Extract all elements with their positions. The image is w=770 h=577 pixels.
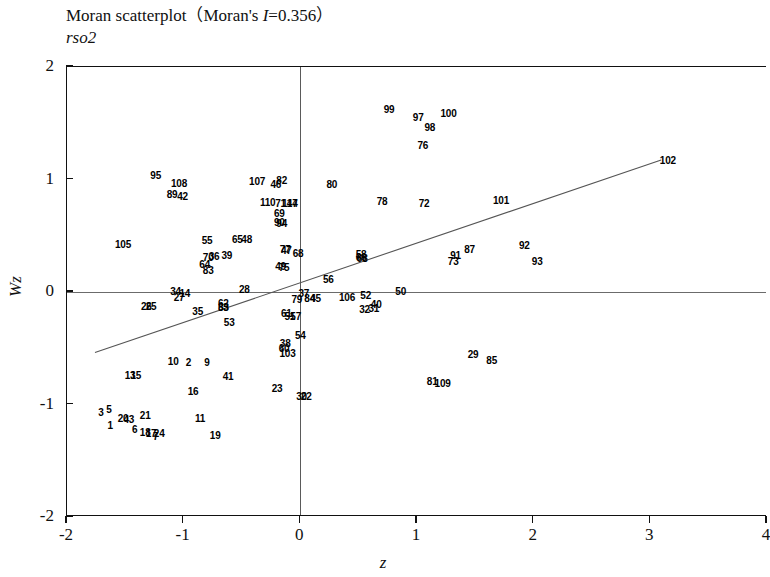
y-tick-label: -2	[40, 506, 54, 526]
data-point-label: 5	[106, 404, 111, 415]
chart-title-prefix: Moran scatterplot（Moran's	[66, 6, 263, 25]
data-point-label: 110	[260, 197, 276, 208]
data-point-label: 63	[218, 301, 229, 312]
chart-title: Moran scatterplot（Moran's I=0.356）	[66, 6, 333, 26]
data-point-label: 52	[360, 290, 371, 301]
data-point-label: 95	[150, 170, 161, 181]
data-point-label: 26	[141, 300, 152, 311]
data-point-label: 42	[177, 191, 188, 202]
data-point-label: 97	[413, 111, 424, 122]
data-point-label: 24	[154, 427, 165, 438]
data-point-label: 19	[210, 429, 221, 440]
x-tick-label: 1	[412, 525, 421, 545]
data-point-label: 99	[384, 103, 395, 114]
data-point-label: 23	[272, 382, 283, 393]
y-tick-label: 2	[46, 56, 55, 76]
x-tick-mark	[299, 516, 301, 523]
data-point-label: 108	[171, 177, 187, 188]
data-point-label: 21	[140, 409, 151, 420]
data-point-label: 47	[287, 198, 298, 209]
data-point-label: 80	[326, 179, 337, 190]
data-point-label: 2	[186, 356, 191, 367]
data-point-label: 40	[371, 299, 382, 310]
data-point-label: 106	[339, 291, 355, 302]
x-tick-mark	[65, 516, 67, 523]
data-point-label: 11	[195, 413, 205, 424]
y-axis-label: Wz	[6, 276, 26, 297]
data-point-label: 98	[424, 121, 435, 132]
data-point-label: 68	[357, 253, 368, 264]
data-point-label: 100	[440, 108, 456, 119]
data-point-label: 1	[107, 419, 112, 430]
data-point-label: 55	[202, 235, 213, 246]
data-point-label: 53	[224, 317, 235, 328]
x-tick-mark	[649, 516, 651, 523]
data-point-label: 85	[486, 354, 497, 365]
data-point-label: 91	[450, 249, 461, 260]
y-tick-mark	[66, 403, 73, 405]
data-point-label: 93	[532, 255, 543, 266]
data-point-label: 43	[123, 414, 134, 425]
data-point-label: 77	[280, 244, 291, 255]
data-point-label: 92	[519, 239, 530, 250]
plot-area: 1235679101113151416171819202122232425262…	[66, 66, 766, 516]
data-point-label: 10	[168, 355, 179, 366]
x-tick-label: -1	[176, 525, 190, 545]
y-tick-label: -1	[40, 394, 54, 414]
data-point-label: 70	[203, 252, 214, 263]
data-point-label: 79	[291, 293, 302, 304]
data-point-label: 101	[493, 194, 509, 205]
data-point-label: 41	[223, 371, 234, 382]
x-tick-label: 2	[528, 525, 537, 545]
data-point-label: 89	[167, 189, 178, 200]
data-point-label: 18	[140, 426, 151, 437]
data-point-label: 9	[204, 356, 209, 367]
data-point-label: 75	[279, 262, 290, 273]
data-point-label: 83	[203, 264, 214, 275]
y-tick-label: 1	[46, 169, 55, 189]
moran-i-value: =0.356）	[268, 6, 333, 25]
data-point-label: 103	[279, 347, 295, 358]
data-point-label: 3	[98, 407, 103, 418]
data-point-label: 56	[323, 273, 334, 284]
data-point-label: 82	[276, 174, 287, 185]
data-point-label: 65	[232, 234, 243, 245]
x-tick-label: 4	[762, 525, 770, 545]
data-point-label: 72	[419, 198, 430, 209]
data-point-label: 105	[115, 238, 131, 249]
y-tick-label: 0	[46, 281, 55, 301]
data-point-label: 87	[464, 244, 475, 255]
data-point-label: 68	[293, 247, 304, 258]
data-point-label: 84	[304, 292, 315, 303]
data-point-label: 76	[417, 139, 428, 150]
data-point-label: 94	[276, 218, 287, 229]
data-point-label: 78	[377, 195, 388, 206]
data-point-label: 39	[221, 249, 232, 260]
data-point-label: 29	[468, 348, 479, 359]
data-point-label: 28	[239, 283, 250, 294]
data-point-label: 6	[132, 424, 137, 435]
x-tick-label: 3	[645, 525, 654, 545]
data-point-label: 50	[395, 285, 406, 296]
x-tick-mark	[765, 516, 767, 523]
y-tick-mark	[66, 178, 73, 180]
x-tick-mark	[532, 516, 534, 523]
data-point-label: 109	[435, 378, 451, 389]
data-point-label: 15	[130, 370, 141, 381]
data-point-label: 32	[359, 303, 370, 314]
x-axis-label: z	[0, 553, 766, 573]
data-point-label: 34	[170, 285, 181, 296]
data-point-label: 35	[192, 306, 203, 317]
y-tick-mark	[66, 515, 73, 517]
data-point-label: 107	[249, 175, 265, 186]
y-tick-mark	[66, 290, 73, 292]
x-tick-label: -2	[59, 525, 73, 545]
x-tick-mark	[182, 516, 184, 523]
x-tick-label: 0	[295, 525, 304, 545]
data-point-label: 16	[188, 386, 199, 397]
data-point-label: 102	[660, 155, 676, 166]
data-point-label: 61	[281, 308, 292, 319]
data-point-label: 30	[296, 390, 307, 401]
x-tick-mark	[415, 516, 417, 523]
